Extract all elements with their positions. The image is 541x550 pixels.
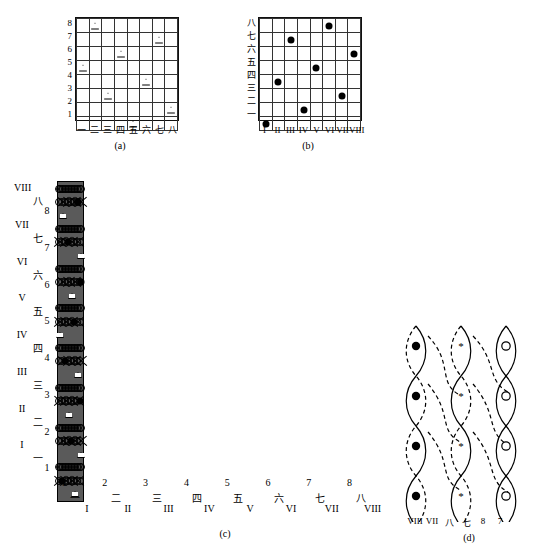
weave-cell[interactable]: [82, 461, 83, 474]
grid-cell[interactable]: [102, 89, 115, 103]
grid-cell[interactable]: [152, 47, 165, 61]
grid-cell[interactable]: [165, 61, 178, 75]
grid-cell[interactable]: [323, 103, 336, 117]
grid-cell[interactable]: [114, 75, 127, 89]
grid-cell[interactable]: [285, 33, 298, 47]
grid-cell[interactable]: [297, 19, 310, 33]
grid-cell[interactable]: [260, 47, 273, 61]
weave-cell[interactable]: [82, 262, 83, 275]
grid-cell[interactable]: [310, 103, 323, 117]
weave-cell[interactable]: [82, 421, 83, 434]
grid-cell[interactable]: [285, 103, 298, 117]
grid-cell[interactable]: [335, 89, 348, 103]
grid-cell[interactable]: [114, 89, 127, 103]
grid-cell[interactable]: [114, 33, 127, 47]
grid-cell[interactable]: [335, 103, 348, 117]
grid-cell[interactable]: [89, 47, 102, 61]
weave-cell[interactable]: [82, 249, 83, 262]
grid-cell[interactable]: [127, 103, 140, 117]
grid-cell[interactable]: [102, 75, 115, 89]
grid-cell[interactable]: [114, 61, 127, 75]
grid-cell[interactable]: [102, 47, 115, 61]
grid-cell[interactable]: [310, 33, 323, 47]
grid-cell[interactable]: [272, 19, 285, 33]
grid-cell[interactable]: [114, 19, 127, 33]
grid-cell[interactable]: [335, 19, 348, 33]
weave-cell[interactable]: [82, 448, 83, 461]
grid-cell[interactable]: [89, 33, 102, 47]
weave-cell[interactable]: [82, 434, 83, 447]
grid-cell[interactable]: [272, 89, 285, 103]
grid-cell[interactable]: [310, 75, 323, 89]
grid-cell[interactable]: [348, 75, 361, 89]
grid-cell[interactable]: [77, 19, 90, 33]
grid-cell[interactable]: [165, 103, 178, 117]
grid-cell[interactable]: [297, 75, 310, 89]
weave-cell[interactable]: [82, 183, 83, 196]
grid-cell[interactable]: [89, 75, 102, 89]
grid-cell[interactable]: [348, 33, 361, 47]
grid-cell[interactable]: [297, 89, 310, 103]
weave-cell[interactable]: [82, 408, 83, 421]
grid-cell[interactable]: [323, 89, 336, 103]
grid-cell[interactable]: [297, 61, 310, 75]
grid-cell[interactable]: [285, 61, 298, 75]
grid-cell[interactable]: [127, 75, 140, 89]
weave-cell[interactable]: [82, 381, 83, 394]
weave-cell[interactable]: [82, 222, 83, 235]
grid-cell[interactable]: [165, 33, 178, 47]
grid-cell[interactable]: [140, 33, 153, 47]
panel-a-grid[interactable]: [75, 17, 179, 121]
grid-cell[interactable]: [114, 47, 127, 61]
grid-cell[interactable]: [152, 75, 165, 89]
weave-cell[interactable]: [82, 275, 83, 288]
weave-cell[interactable]: [82, 289, 83, 302]
grid-cell[interactable]: [77, 75, 90, 89]
grid-cell[interactable]: [102, 33, 115, 47]
grid-cell[interactable]: [140, 19, 153, 33]
weave-cell[interactable]: [82, 368, 83, 381]
grid-cell[interactable]: [77, 47, 90, 61]
grid-cell[interactable]: [272, 61, 285, 75]
grid-cell[interactable]: [348, 61, 361, 75]
grid-cell[interactable]: [127, 89, 140, 103]
grid-cell[interactable]: [297, 103, 310, 117]
grid-cell[interactable]: [152, 19, 165, 33]
grid-cell[interactable]: [77, 33, 90, 47]
grid-cell[interactable]: [89, 19, 102, 33]
grid-cell[interactable]: [260, 19, 273, 33]
grid-cell[interactable]: [140, 103, 153, 117]
grid-cell[interactable]: [152, 89, 165, 103]
grid-cell[interactable]: [114, 103, 127, 117]
grid-cell[interactable]: [89, 89, 102, 103]
grid-cell[interactable]: [272, 103, 285, 117]
weave-cell[interactable]: [82, 236, 83, 249]
weave-cell[interactable]: [82, 328, 83, 341]
grid-cell[interactable]: [140, 75, 153, 89]
grid-cell[interactable]: [77, 89, 90, 103]
grid-cell[interactable]: [323, 47, 336, 61]
grid-cell[interactable]: [260, 89, 273, 103]
grid-cell[interactable]: [323, 61, 336, 75]
grid-cell[interactable]: [348, 103, 361, 117]
grid-cell[interactable]: [272, 47, 285, 61]
grid-cell[interactable]: [335, 61, 348, 75]
grid-cell[interactable]: [140, 89, 153, 103]
grid-cell[interactable]: [285, 75, 298, 89]
grid-cell[interactable]: [285, 89, 298, 103]
grid-cell[interactable]: [102, 103, 115, 117]
grid-cell[interactable]: [335, 47, 348, 61]
grid-cell[interactable]: [310, 89, 323, 103]
grid-cell[interactable]: [127, 33, 140, 47]
grid-cell[interactable]: [272, 33, 285, 47]
grid-cell[interactable]: [348, 47, 361, 61]
grid-cell[interactable]: [165, 19, 178, 33]
weave-cell[interactable]: [82, 196, 83, 209]
grid-cell[interactable]: [77, 103, 90, 117]
weave-cell[interactable]: [82, 302, 83, 315]
weave-cell[interactable]: [82, 474, 83, 487]
panel-c-grid[interactable]: [57, 181, 84, 502]
weave-cell[interactable]: [82, 315, 83, 328]
grid-cell[interactable]: [297, 47, 310, 61]
grid-cell[interactable]: [89, 103, 102, 117]
